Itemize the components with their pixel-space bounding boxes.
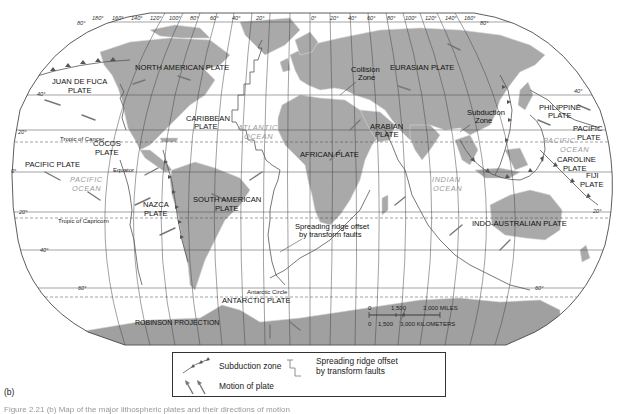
svg-text:PLATE: PLATE bbox=[577, 133, 601, 142]
svg-text:160°: 160° bbox=[112, 15, 124, 21]
legend-ridge-label-1: Spreading ridge offset bbox=[316, 357, 398, 366]
svg-text:NORTH AMERICAN PLATE: NORTH AMERICAN PLATE bbox=[135, 63, 229, 72]
svg-text:PLATE: PLATE bbox=[215, 204, 239, 213]
svg-text:PLATE: PLATE bbox=[194, 122, 218, 131]
svg-text:OCEAN: OCEAN bbox=[244, 132, 273, 141]
svg-text:PACIFIC: PACIFIC bbox=[70, 175, 103, 184]
figure-caption: Figure 2.21 (b) Map of the major lithosp… bbox=[4, 405, 290, 414]
svg-text:Tropic of Capricorn: Tropic of Capricorn bbox=[58, 218, 109, 224]
svg-text:80°: 80° bbox=[190, 15, 199, 21]
svg-text:60°: 60° bbox=[78, 285, 87, 291]
svg-text:PACIFIC: PACIFIC bbox=[573, 124, 603, 133]
svg-text:COCOS: COCOS bbox=[93, 139, 121, 148]
svg-text:100°: 100° bbox=[405, 15, 417, 21]
svg-text:Zone: Zone bbox=[358, 73, 375, 82]
svg-text:OCEAN: OCEAN bbox=[560, 145, 589, 154]
svg-text:JUAN DE FUCA: JUAN DE FUCA bbox=[52, 77, 108, 86]
svg-text:20°: 20° bbox=[17, 129, 27, 135]
svg-text:20°: 20° bbox=[329, 15, 339, 21]
panel-label: (b) bbox=[4, 387, 14, 397]
svg-text:20°: 20° bbox=[18, 209, 28, 215]
svg-text:ANTARCTIC PLATE: ANTARCTIC PLATE bbox=[222, 296, 291, 305]
svg-text:1,500: 1,500 bbox=[378, 321, 394, 327]
svg-text:PLATE: PLATE bbox=[95, 148, 119, 157]
svg-text:CAROLINE: CAROLINE bbox=[557, 155, 596, 164]
svg-text:PACIFIC: PACIFIC bbox=[543, 136, 576, 145]
tectonic-plate-map: 180° 160° 140° 120° 100° 80° 60° 40° 20°… bbox=[0, 0, 620, 350]
svg-text:40°: 40° bbox=[232, 15, 241, 21]
svg-text:INDO-AUSTRALIAN PLATE: INDO-AUSTRALIAN PLATE bbox=[472, 219, 567, 228]
svg-text:3,000 MILES: 3,000 MILES bbox=[423, 305, 458, 311]
svg-text:NAZCA: NAZCA bbox=[143, 200, 170, 209]
subduction-zone-legend-icon bbox=[181, 357, 211, 375]
svg-text:80°: 80° bbox=[77, 20, 86, 26]
svg-text:40°: 40° bbox=[574, 88, 583, 94]
svg-text:0°: 0° bbox=[11, 168, 17, 174]
svg-text:120°: 120° bbox=[150, 15, 162, 21]
legend-ridge-label-2: by transform faults bbox=[316, 367, 385, 376]
svg-text:by transform faults: by transform faults bbox=[299, 230, 362, 239]
svg-text:Equator: Equator bbox=[113, 167, 134, 173]
svg-text:60°: 60° bbox=[210, 15, 219, 21]
svg-text:100°: 100° bbox=[169, 15, 181, 21]
svg-text:60°: 60° bbox=[367, 15, 376, 21]
svg-text:1,500: 1,500 bbox=[391, 305, 407, 311]
svg-text:140°: 140° bbox=[131, 15, 143, 21]
svg-text:20°: 20° bbox=[592, 208, 602, 214]
svg-text:PLATE: PLATE bbox=[548, 111, 572, 120]
svg-text:40°: 40° bbox=[40, 247, 49, 253]
svg-text:FIJI: FIJI bbox=[586, 171, 599, 180]
svg-text:160°: 160° bbox=[464, 15, 476, 21]
svg-text:40°: 40° bbox=[348, 15, 357, 21]
svg-text:PLATE: PLATE bbox=[563, 164, 587, 173]
svg-text:OCEAN: OCEAN bbox=[72, 184, 101, 193]
ridge-transform-legend-icon bbox=[285, 358, 303, 380]
svg-text:OCEAN: OCEAN bbox=[433, 184, 462, 193]
map-legend: Subduction zone Motion of plate Spreadin… bbox=[172, 352, 446, 397]
svg-text:PLATE: PLATE bbox=[144, 209, 168, 218]
legend-motion-label: Motion of plate bbox=[219, 382, 274, 391]
svg-text:INDIAN: INDIAN bbox=[432, 175, 461, 184]
svg-text:80°: 80° bbox=[387, 15, 396, 21]
svg-text:PLATE: PLATE bbox=[375, 130, 399, 139]
svg-text:PLATE: PLATE bbox=[68, 86, 92, 95]
svg-text:PACIFIC PLATE: PACIFIC PLATE bbox=[25, 160, 80, 169]
svg-text:180°: 180° bbox=[92, 15, 104, 21]
svg-text:Zone: Zone bbox=[475, 116, 492, 125]
svg-text:PLATE: PLATE bbox=[580, 180, 604, 189]
svg-text:120°: 120° bbox=[425, 15, 437, 21]
svg-text:EURASIAN PLATE: EURASIAN PLATE bbox=[390, 63, 454, 72]
legend-subduction-label: Subduction zone bbox=[219, 362, 281, 371]
svg-text:Antarctic Circle: Antarctic Circle bbox=[247, 289, 288, 295]
svg-text:AFRICAN PLATE: AFRICAN PLATE bbox=[300, 150, 359, 159]
svg-text:3,000 KILOMETERS: 3,000 KILOMETERS bbox=[400, 321, 455, 327]
plate-motion-legend-icon bbox=[185, 380, 215, 396]
projection-label: ROBINSON PROJECTION bbox=[135, 319, 219, 326]
svg-text:60°: 60° bbox=[535, 285, 544, 291]
svg-text:140°: 140° bbox=[445, 15, 457, 21]
svg-text:20°: 20° bbox=[255, 15, 265, 21]
svg-text:ATLANTIC: ATLANTIC bbox=[237, 123, 278, 132]
svg-text:40°: 40° bbox=[37, 91, 46, 97]
svg-text:80°: 80° bbox=[480, 20, 489, 26]
svg-text:SOUTH AMERICAN: SOUTH AMERICAN bbox=[193, 195, 261, 204]
svg-text:0°: 0° bbox=[311, 15, 317, 21]
